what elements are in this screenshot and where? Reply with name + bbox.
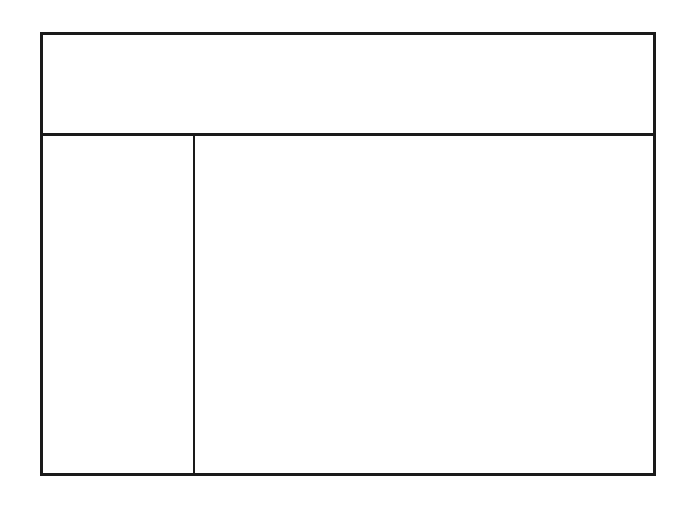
stroke-order-row [43, 35, 653, 136]
model-character-cell [43, 136, 195, 473]
worksheet [40, 32, 656, 476]
